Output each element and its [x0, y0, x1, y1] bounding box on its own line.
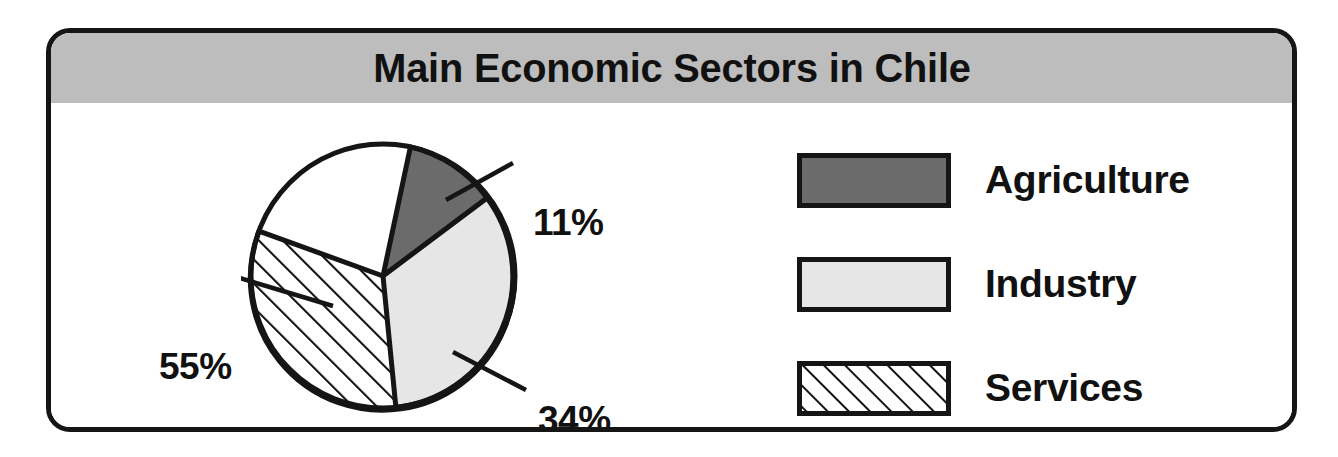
legend-item-agriculture[interactable]: Agriculture	[797, 141, 1267, 219]
legend-swatch-services	[797, 361, 951, 416]
pie-label-agriculture: 11%	[533, 202, 604, 244]
pie-chart	[241, 128, 541, 418]
pie-label-services: 55%	[159, 346, 232, 388]
chart-title: Main Economic Sectors in Chile	[373, 45, 970, 92]
title-banner: Main Economic Sectors in Chile	[51, 33, 1292, 103]
legend-swatch-agriculture	[797, 153, 951, 208]
legend-item-services[interactable]: Services	[797, 349, 1267, 427]
legend-label-agriculture: Agriculture	[985, 158, 1190, 202]
legend-label-services: Services	[985, 366, 1143, 410]
legend-label-industry: Industry	[985, 262, 1136, 306]
chart-body: 11% 34% 55% Agriculture Industry	[51, 103, 1292, 427]
chart-page: Main Economic Sectors in Chile	[0, 0, 1338, 457]
legend-item-industry[interactable]: Industry	[797, 245, 1267, 323]
chart-frame: Main Economic Sectors in Chile	[46, 28, 1297, 432]
pie-svg	[241, 128, 541, 418]
legend-hatch-pattern	[802, 366, 951, 416]
pie-label-industry: 34%	[538, 399, 611, 432]
legend-swatch-industry	[797, 257, 951, 312]
chart-legend: Agriculture Industry	[797, 141, 1267, 427]
